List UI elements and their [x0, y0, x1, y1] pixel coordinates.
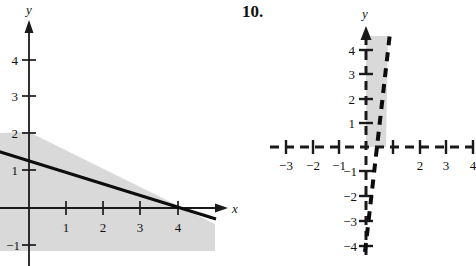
chart-panel-right: 10.	[238, 0, 476, 266]
left-x-axis-arrowhead	[215, 204, 228, 213]
right-y-tick-label-minus2: −2	[343, 189, 357, 204]
right-x-tick-label-minus2: −2	[306, 158, 320, 173]
right-y-tick-label-2: 2	[349, 92, 356, 107]
right-y-tick-label-minus1: −1	[343, 164, 357, 179]
right-y-axis-label: y	[360, 6, 368, 21]
problem-number-label: 10.	[242, 2, 263, 22]
left-y-tick-label-2: 2	[12, 126, 19, 141]
left-y-axis-arrowhead	[25, 20, 34, 33]
right-y-tick-label-1: 1	[349, 116, 356, 131]
right-x-tick-label-3: 3	[443, 158, 450, 173]
left-x-tick-label-2: 2	[100, 220, 107, 235]
left-y-tick-label-4: 4	[12, 53, 19, 68]
left-shaded-region	[0, 132, 215, 251]
left-x-axis-label: x	[231, 201, 238, 216]
left-y-tick-label-3: 3	[12, 89, 19, 104]
left-y-tick-label-1: 1	[12, 163, 19, 178]
left-inequality-graph: 1 2 3 4 4 3 2 1 −1 y x	[0, 0, 238, 266]
right-y-tick-label-minus3: −3	[343, 214, 357, 229]
left-x-tick-label-3: 3	[137, 220, 144, 235]
right-inequality-graph: −3 −2 −1 2 3 4 4 3 2 1 −1 −2 −3 −4 y	[238, 0, 476, 266]
right-y-axis-arrowhead	[361, 26, 372, 40]
right-y-tick-label-3: 3	[349, 67, 356, 82]
right-x-tick-label-2: 2	[417, 158, 424, 173]
chart-panel-left: 1 2 3 4 4 3 2 1 −1 y x	[0, 0, 238, 266]
figure-container: 1 2 3 4 4 3 2 1 −1 y x 10.	[0, 0, 476, 266]
right-y-tick-label-minus4: −4	[343, 239, 357, 254]
left-x-tick-label-1: 1	[63, 220, 70, 235]
left-y-axis-label: y	[24, 2, 32, 17]
left-y-tick-label-minus1: −1	[6, 238, 20, 253]
right-x-tick-label-4: 4	[470, 158, 476, 173]
right-y-tick-label-4: 4	[349, 43, 356, 58]
left-x-tick-label-4: 4	[175, 220, 182, 235]
right-x-tick-label-minus3: −3	[279, 158, 293, 173]
